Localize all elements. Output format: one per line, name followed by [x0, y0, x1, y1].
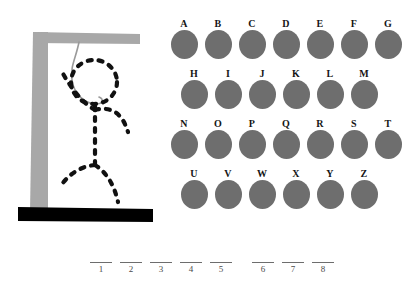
letter-disc[interactable]	[307, 130, 334, 159]
answer-blanks: 1 2 3 4 5 6	[0, 256, 415, 292]
letter-disc[interactable]	[171, 30, 198, 59]
gallows-base	[18, 207, 153, 222]
answer-slot-8[interactable]: 8	[308, 256, 338, 274]
answer-slot-number: 6	[248, 264, 278, 274]
letter-disc[interactable]	[375, 30, 402, 59]
letter-disc[interactable]	[239, 30, 266, 59]
letter-button-q[interactable]: Q	[269, 118, 303, 168]
letter-disc[interactable]	[317, 80, 344, 109]
letter-disc[interactable]	[273, 130, 300, 159]
letter-label: J	[245, 68, 279, 79]
answer-slot-number: 2	[116, 264, 146, 274]
answer-slot-number: 4	[176, 264, 206, 274]
letter-button-m[interactable]: M	[347, 68, 381, 118]
answer-slot-5[interactable]: 5	[206, 256, 236, 274]
letter-disc[interactable]	[239, 130, 266, 159]
letter-button-l[interactable]: L	[313, 68, 347, 118]
letter-disc[interactable]	[249, 180, 276, 209]
letter-button-f[interactable]: F	[337, 18, 371, 68]
answer-slot-2[interactable]: 2	[116, 256, 146, 274]
letter-disc[interactable]	[249, 80, 276, 109]
answer-word-group: 1 2 3 4 5	[86, 256, 236, 274]
letter-disc[interactable]	[341, 130, 368, 159]
letter-disc[interactable]	[375, 130, 402, 159]
letter-disc[interactable]	[205, 130, 232, 159]
letter-label: D	[269, 18, 303, 29]
letter-disc[interactable]	[307, 30, 334, 59]
letter-button-j[interactable]: J	[245, 68, 279, 118]
answer-line	[180, 262, 202, 263]
letter-label: P	[235, 118, 269, 129]
letter-button-d[interactable]: D	[269, 18, 303, 68]
answer-line	[210, 262, 232, 263]
answer-slot-6[interactable]: 6	[248, 256, 278, 274]
answer-slot-1[interactable]: 1	[86, 256, 116, 274]
gallows-area	[0, 0, 165, 240]
answer-slot-3[interactable]: 3	[146, 256, 176, 274]
letter-label: N	[167, 118, 201, 129]
letter-button-i[interactable]: I	[211, 68, 245, 118]
letter-button-c[interactable]: C	[235, 18, 269, 68]
letter-label: T	[371, 118, 405, 129]
letter-label: W	[245, 168, 279, 179]
letter-button-s[interactable]: S	[337, 118, 371, 168]
letter-label: I	[211, 68, 245, 79]
letter-disc[interactable]	[215, 180, 242, 209]
answer-slot-number: 7	[278, 264, 308, 274]
letter-button-a[interactable]: A	[167, 18, 201, 68]
letter-disc[interactable]	[205, 30, 232, 59]
letter-label: G	[371, 18, 405, 29]
letter-button-u[interactable]: U	[177, 168, 211, 218]
letter-disc[interactable]	[283, 180, 310, 209]
letter-button-w[interactable]: W	[245, 168, 279, 218]
letter-disc[interactable]	[351, 80, 378, 109]
letter-disc[interactable]	[215, 80, 242, 109]
letter-disc[interactable]	[317, 180, 344, 209]
answer-line	[150, 262, 172, 263]
letter-button-h[interactable]: H	[177, 68, 211, 118]
letter-disc[interactable]	[283, 80, 310, 109]
letter-button-k[interactable]: K	[279, 68, 313, 118]
letter-label: S	[337, 118, 371, 129]
letter-button-g[interactable]: G	[371, 18, 405, 68]
letter-label: Q	[269, 118, 303, 129]
letter-disc[interactable]	[341, 30, 368, 59]
letter-button-n[interactable]: N	[167, 118, 201, 168]
answer-slot-7[interactable]: 7	[278, 256, 308, 274]
answer-line	[252, 262, 274, 263]
letter-disc[interactable]	[273, 30, 300, 59]
gallows-drawing	[0, 0, 165, 240]
letter-disc[interactable]	[181, 80, 208, 109]
letter-disc[interactable]	[181, 180, 208, 209]
figure-right-leg	[95, 165, 118, 202]
letter-button-b[interactable]: B	[201, 18, 235, 68]
letter-button-z[interactable]: Z	[347, 168, 381, 218]
letter-button-t[interactable]: T	[371, 118, 405, 168]
answer-slot-4[interactable]: 4	[176, 256, 206, 274]
answer-line	[312, 262, 334, 263]
letter-button-y[interactable]: Y	[313, 168, 347, 218]
letter-label: Z	[347, 168, 381, 179]
alphabet-row: H I J K L M	[177, 68, 381, 118]
letter-label: A	[167, 18, 201, 29]
letter-button-r[interactable]: R	[303, 118, 337, 168]
letter-disc[interactable]	[351, 180, 378, 209]
letter-button-o[interactable]: O	[201, 118, 235, 168]
letter-label: O	[201, 118, 235, 129]
alphabet-row: A B C D E F G	[167, 18, 405, 68]
alphabet-row: U V W X Y Z	[177, 168, 381, 218]
answer-word-group: 6 7 8	[248, 256, 338, 274]
letter-button-e[interactable]: E	[303, 18, 337, 68]
letter-label: B	[201, 18, 235, 29]
letter-disc[interactable]	[171, 130, 198, 159]
answer-line	[282, 262, 304, 263]
letter-button-v[interactable]: V	[211, 168, 245, 218]
letter-button-x[interactable]: X	[279, 168, 313, 218]
answer-slot-number: 3	[146, 264, 176, 274]
answer-line	[120, 262, 142, 263]
letter-label: L	[313, 68, 347, 79]
letter-button-p[interactable]: P	[235, 118, 269, 168]
letter-label: V	[211, 168, 245, 179]
gallows-beam	[33, 32, 140, 44]
letter-label: F	[337, 18, 371, 29]
